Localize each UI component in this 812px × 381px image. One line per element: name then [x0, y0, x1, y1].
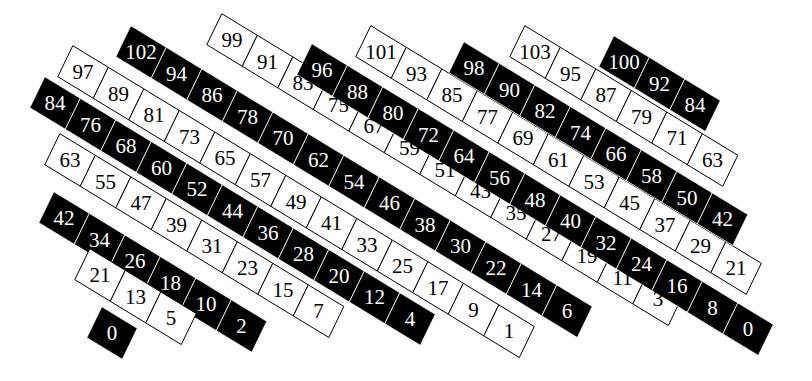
cell-number: 92	[649, 72, 670, 96]
cell-number: 65	[215, 146, 236, 170]
cell-number: 50	[677, 186, 698, 210]
cell-number: 103	[519, 40, 551, 64]
cell-number: 95	[560, 62, 581, 86]
cell-number: 67	[364, 114, 385, 138]
cell-number: 6	[562, 299, 573, 323]
cell-number: 55	[95, 170, 116, 194]
cell-number: 74	[570, 121, 592, 145]
cell-number: 26	[125, 249, 146, 273]
cell-number: 60	[151, 156, 172, 180]
cell-number: 0	[107, 321, 118, 345]
cell-number: 68	[116, 134, 137, 158]
cell-number: 81	[144, 103, 165, 127]
cell-number: 96	[312, 58, 333, 82]
cell-number: 78	[237, 105, 258, 129]
number-grid-diagram: 9789817365574941332517918476686052443628…	[0, 0, 812, 381]
cell-number: 19	[577, 244, 598, 268]
cell-number: 62	[308, 148, 329, 172]
cell-number: 22	[486, 256, 507, 280]
cell-number: 27	[541, 222, 562, 246]
cell-number: 47	[131, 191, 152, 215]
cell-number: 37	[655, 213, 676, 237]
cell-number: 75	[328, 93, 349, 117]
cell-number: 24	[631, 252, 653, 276]
cell-number: 73	[179, 125, 200, 149]
cell-number: 33	[357, 233, 378, 257]
cell-number: 41	[321, 211, 342, 235]
cell-number: 51	[435, 158, 456, 182]
cell-number: 79	[631, 105, 652, 129]
cell-number: 30	[450, 234, 471, 258]
cell-number: 63	[702, 148, 723, 172]
cell-number: 32	[596, 231, 617, 255]
cell-number: 12	[364, 285, 385, 309]
cell-number: 4	[405, 307, 416, 331]
cell-number: 8	[707, 296, 718, 320]
cell-number: 48	[525, 188, 546, 212]
cell-number: 61	[548, 148, 569, 172]
cell-number: 63	[60, 148, 81, 172]
cell-number: 17	[428, 276, 449, 300]
cell-number: 58	[641, 164, 662, 188]
cell-number: 3	[653, 287, 664, 311]
cell-number: 70	[273, 126, 294, 150]
cell-number: 9	[468, 298, 479, 322]
cell-number: 14	[521, 278, 543, 302]
cell-number: 102	[125, 40, 157, 64]
cell-number: 15	[273, 278, 294, 302]
cell-number: 10	[196, 292, 217, 316]
cell-number: 84	[45, 91, 67, 115]
cell-number: 91	[257, 50, 278, 74]
cell-number: 54	[344, 170, 366, 194]
cell-number: 25	[392, 254, 413, 278]
cell-number: 59	[399, 136, 420, 160]
cell-number: 28	[293, 242, 314, 266]
cell-number: 44	[222, 199, 244, 223]
cell-number: 88	[347, 80, 368, 104]
cell-number: 34	[89, 228, 111, 252]
cell-number: 11	[612, 266, 632, 290]
cell-number: 39	[166, 213, 187, 237]
cell-number: 1	[504, 319, 515, 343]
cell-number: 5	[166, 306, 177, 330]
cell-number: 18	[160, 271, 181, 295]
cell-number: 38	[415, 213, 436, 237]
cell-number: 85	[442, 83, 463, 107]
cell-number: 101	[365, 40, 397, 64]
cell-number: 56	[489, 166, 510, 190]
cell-number: 82	[535, 99, 556, 123]
cell-number: 7	[313, 299, 324, 323]
cell-number: 66	[606, 142, 627, 166]
cell-number: 52	[187, 177, 208, 201]
cell-number: 0	[743, 317, 754, 341]
cell-number: 46	[379, 191, 400, 215]
cell-number: 71	[667, 126, 688, 150]
cell-number: 35	[506, 201, 527, 225]
cell-number: 40	[560, 209, 581, 233]
cell-number: 31	[202, 234, 223, 258]
cell-number: 83	[293, 71, 314, 95]
cell-number: 16	[667, 274, 688, 298]
cell-number: 97	[73, 60, 94, 84]
cell-number: 21	[90, 263, 111, 287]
cell-number: 42	[54, 206, 75, 230]
cell-number: 21	[726, 256, 747, 280]
cell-number: 84	[685, 93, 707, 117]
cell-number: 20	[329, 264, 350, 288]
cell-number: 45	[619, 191, 640, 215]
cell-number: 87	[596, 83, 617, 107]
cell-number: 86	[202, 83, 223, 107]
cell-number: 98	[464, 56, 485, 80]
cell-number: 64	[454, 144, 476, 168]
cell-number: 80	[383, 101, 404, 125]
cell-number: 76	[80, 113, 101, 137]
cell-number: 49	[286, 190, 307, 214]
cell-number: 23	[237, 256, 258, 280]
cell-number: 100	[608, 50, 640, 74]
cell-number: 72	[418, 123, 439, 147]
cell-number: 94	[166, 62, 188, 86]
cell-number: 99	[222, 28, 243, 52]
cell-number: 69	[513, 126, 534, 150]
cell-number: 29	[690, 234, 711, 258]
cell-number: 36	[258, 221, 279, 245]
